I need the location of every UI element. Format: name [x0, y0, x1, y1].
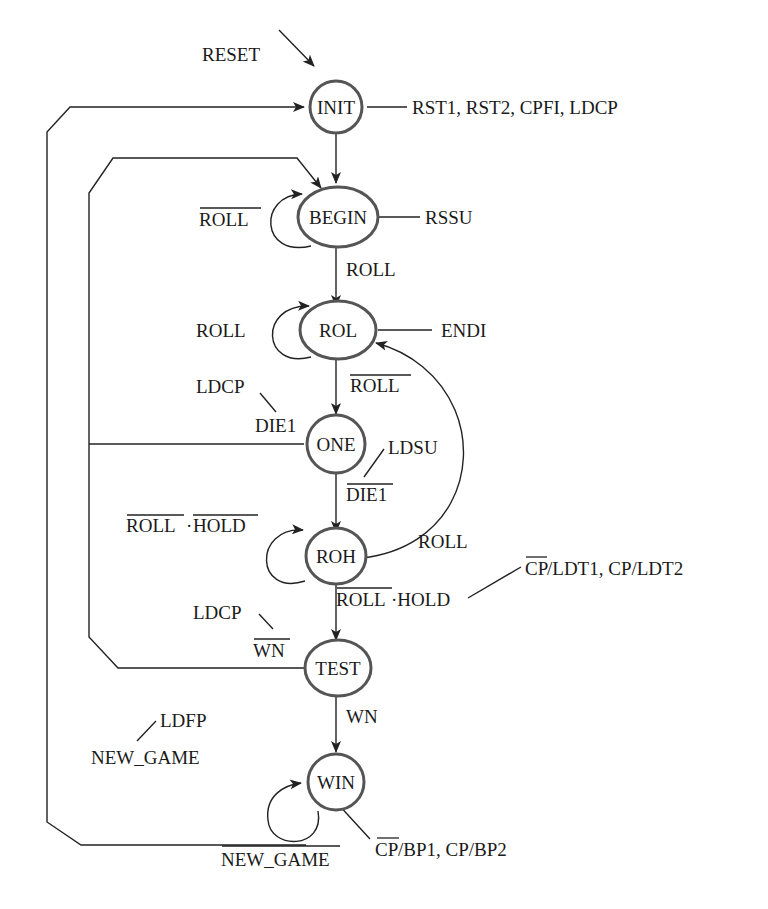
- edge-win-init: [47, 107, 306, 845]
- state-one[interactable]: ONE: [307, 415, 365, 473]
- label-roh-test-output-cp-bar: CP: [525, 558, 548, 579]
- one-ldsu-leader: [364, 449, 384, 477]
- state-roh[interactable]: ROH: [306, 528, 366, 584]
- edge-reset-init: [279, 30, 314, 66]
- state-win-label: WIN: [317, 772, 355, 793]
- label-roh-self-roll-bar: ROLL: [126, 515, 176, 536]
- test-ldcp-leader: [259, 614, 273, 629]
- one-ldcp-leader: [260, 393, 276, 412]
- label-rol-self-roll: ROLL: [196, 320, 246, 341]
- state-test-label: TEST: [315, 658, 361, 679]
- state-win[interactable]: WIN: [308, 754, 364, 810]
- label-init-outputs: RST1, RST2, CPFI, LDCP: [412, 97, 618, 118]
- label-rol-one-roll-bar: ROLL: [350, 375, 400, 396]
- state-diagram: INIT BEGIN ROL ONE ROH TEST WIN RESET RS…: [0, 0, 768, 909]
- label-win-output-cp-bar: CP: [375, 839, 398, 860]
- label-roh-self-dot: ·: [186, 515, 192, 536]
- label-reset: RESET: [202, 44, 260, 65]
- label-win-self-new-game-bar: NEW_GAME: [221, 849, 330, 870]
- label-one-ldcp: LDCP: [196, 376, 245, 397]
- label-roh-self-hold-bar: HOLD: [193, 515, 246, 536]
- state-init-label: INIT: [317, 97, 355, 118]
- state-rol[interactable]: ROL: [300, 301, 376, 359]
- label-one-die1: DIE1: [255, 415, 296, 436]
- label-roh-test-output: /LDT1, CP/LDT2: [547, 558, 683, 579]
- label-win-new-game: NEW_GAME: [91, 747, 200, 768]
- label-test-ldcp: LDCP: [193, 602, 242, 623]
- state-roh-label: ROH: [316, 546, 356, 567]
- label-rol-output: ENDI: [441, 320, 486, 341]
- roh-test-output-leader: [468, 567, 521, 598]
- label-one-ldsu: LDSU: [388, 437, 438, 458]
- label-roh-rol-roll: ROLL: [418, 531, 468, 552]
- label-begin-rol-roll: ROLL: [346, 259, 396, 280]
- label-begin-output: RSSU: [425, 207, 473, 228]
- label-roh-test-hold: ·HOLD: [391, 589, 450, 610]
- label-test-wn-bar: WN: [253, 640, 285, 661]
- label-roh-test-roll-bar: ROLL: [336, 589, 386, 610]
- state-init[interactable]: INIT: [310, 81, 362, 133]
- edge-test-begin: [89, 158, 321, 668]
- edge-roh-self: [266, 530, 305, 583]
- label-test-win-wn: WN: [346, 706, 378, 727]
- label-begin-self-roll-bar: ROLL: [199, 209, 249, 230]
- label-win-ldfp: LDFP: [160, 710, 206, 731]
- state-one-label: ONE: [316, 434, 355, 455]
- state-begin-label: BEGIN: [309, 207, 367, 228]
- state-begin[interactable]: BEGIN: [298, 187, 378, 247]
- state-test[interactable]: TEST: [305, 640, 371, 696]
- win-ldfp-leader: [137, 721, 156, 741]
- label-one-roh-die1-bar: DIE1: [346, 484, 387, 505]
- state-rol-label: ROL: [319, 320, 357, 341]
- label-win-output: /BP1, CP/BP2: [398, 839, 507, 860]
